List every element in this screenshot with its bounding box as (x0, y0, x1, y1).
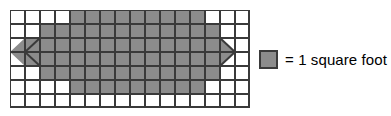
shaded-area-figure: = 1 square foot (0, 0, 391, 116)
legend: = 1 square foot (259, 44, 387, 74)
shaded-square-swatch-icon (259, 50, 278, 69)
grid-svg (10, 10, 250, 108)
unit-grid (10, 10, 250, 108)
legend-label: = 1 square foot (285, 52, 387, 67)
